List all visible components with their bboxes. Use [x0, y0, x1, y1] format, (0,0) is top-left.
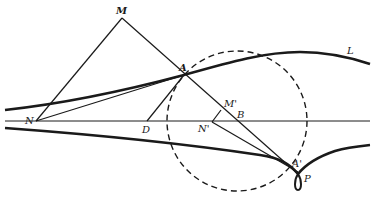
label-D: D: [141, 124, 150, 135]
label-L: L: [346, 45, 354, 56]
label-N: N: [24, 115, 35, 126]
line-N-A: [36, 75, 184, 121]
cusp-loop-P: [295, 174, 301, 190]
label-A: A: [178, 62, 187, 73]
label-B: B: [236, 109, 244, 120]
label-M-prime: M': [223, 98, 237, 109]
label-M: M: [115, 5, 128, 16]
geometric-diagram: M A N D M' B N' A' P L: [0, 0, 372, 205]
label-A-prime: A': [291, 158, 302, 169]
line-N-prime-M-prime: [212, 110, 221, 122]
label-N-prime: N': [197, 123, 210, 134]
upper-curve-L: [5, 52, 370, 110]
line-M-A-prime: [122, 18, 298, 174]
lower-curve-right: [298, 145, 370, 174]
label-P: P: [303, 173, 311, 184]
line-N-M: [36, 18, 122, 121]
line-N-prime-A-prime: [212, 122, 298, 172]
